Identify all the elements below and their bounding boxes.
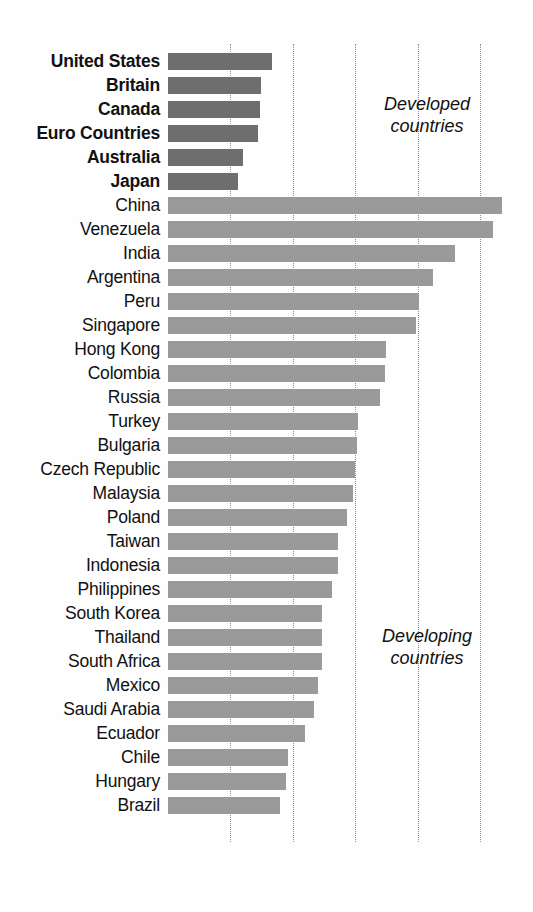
bar[interactable] (168, 749, 288, 766)
bar[interactable] (168, 149, 243, 166)
bar-row-label: Bulgaria (0, 434, 160, 458)
bar-row-label: Ecuador (0, 722, 160, 746)
bar[interactable] (168, 341, 387, 358)
bar-row-label: Chile (0, 746, 160, 770)
bar[interactable] (168, 317, 416, 334)
bar-row-label: Britain (0, 74, 160, 98)
bar-row[interactable]: Australia (0, 146, 533, 170)
bar-chart: United StatesBritainCanadaEuro Countries… (0, 0, 533, 912)
bar-row-label: Philippines (0, 578, 160, 602)
bar-row[interactable]: Taiwan (0, 530, 533, 554)
bar-row-label: Russia (0, 386, 160, 410)
bar-row-label: Taiwan (0, 530, 160, 554)
bar-row-label: United States (0, 50, 160, 74)
bar-row[interactable]: Czech Republic (0, 458, 533, 482)
bar[interactable] (168, 221, 493, 238)
bar-row[interactable]: Bulgaria (0, 434, 533, 458)
bar[interactable] (168, 389, 381, 406)
bar-row[interactable]: China (0, 194, 533, 218)
bar[interactable] (168, 533, 338, 550)
annotation-developed-countries: Developed countries (352, 93, 502, 137)
bar-row[interactable]: United States (0, 50, 533, 74)
bar-row-label: Argentina (0, 266, 160, 290)
bar-row-label: Colombia (0, 362, 160, 386)
bar-row[interactable]: Peru (0, 290, 533, 314)
bar[interactable] (168, 629, 323, 646)
bar-row-label: Australia (0, 146, 160, 170)
bar[interactable] (168, 509, 348, 526)
bar[interactable] (168, 293, 420, 310)
bar[interactable] (168, 797, 281, 814)
bar[interactable] (168, 653, 323, 670)
bar-row[interactable]: Mexico (0, 674, 533, 698)
bar[interactable] (168, 197, 502, 214)
bar[interactable] (168, 365, 385, 382)
bar-row[interactable]: Malaysia (0, 482, 533, 506)
bar[interactable] (168, 53, 273, 70)
bar-row-label: Czech Republic (0, 458, 160, 482)
bar-row[interactable]: Indonesia (0, 554, 533, 578)
bar-row[interactable]: India (0, 242, 533, 266)
bar[interactable] (168, 581, 332, 598)
bar-row-label: Turkey (0, 410, 160, 434)
bar-row-label: Indonesia (0, 554, 160, 578)
bar-row[interactable]: Singapore (0, 314, 533, 338)
bar[interactable] (168, 101, 260, 118)
bar-row-label: Singapore (0, 314, 160, 338)
bar-row-label: Hungary (0, 770, 160, 794)
bar-row-label: South Korea (0, 602, 160, 626)
bar-row[interactable]: Brazil (0, 794, 533, 818)
bar-row-label: Thailand (0, 626, 160, 650)
bar-row-label: Japan (0, 170, 160, 194)
bar-row-label: India (0, 242, 160, 266)
bar[interactable] (168, 269, 434, 286)
bar-row[interactable]: Hungary (0, 770, 533, 794)
bar-row[interactable]: Hong Kong (0, 338, 533, 362)
bar-row-label: China (0, 194, 160, 218)
bar[interactable] (168, 461, 356, 478)
bar-row[interactable]: Russia (0, 386, 533, 410)
bar[interactable] (168, 605, 323, 622)
bar-row-label: Mexico (0, 674, 160, 698)
bar-row-label: Saudi Arabia (0, 698, 160, 722)
bar[interactable] (168, 77, 262, 94)
bar[interactable] (168, 557, 338, 574)
bar[interactable] (168, 125, 259, 142)
bar-row[interactable]: Chile (0, 746, 533, 770)
annotation-developing-countries: Developing countries (352, 625, 502, 669)
bar-row[interactable]: Philippines (0, 578, 533, 602)
bar[interactable] (168, 437, 357, 454)
bar-row[interactable]: South Korea (0, 602, 533, 626)
bar-row[interactable]: Ecuador (0, 722, 533, 746)
bar-row[interactable]: Turkey (0, 410, 533, 434)
bar[interactable] (168, 485, 354, 502)
bar-row-label: Poland (0, 506, 160, 530)
bar-row[interactable]: Japan (0, 170, 533, 194)
bar-row[interactable]: Poland (0, 506, 533, 530)
bar-row-label: Venezuela (0, 218, 160, 242)
bar[interactable] (168, 677, 318, 694)
x-axis: 2%4%6%8%10% (0, 842, 533, 912)
bar[interactable] (168, 173, 238, 190)
bar-row-label: Hong Kong (0, 338, 160, 362)
bar-row-label: Malaysia (0, 482, 160, 506)
bar-row-label: Canada (0, 98, 160, 122)
bar[interactable] (168, 413, 359, 430)
bar[interactable] (168, 701, 315, 718)
bar-row[interactable]: Saudi Arabia (0, 698, 533, 722)
bar-row-label: Euro Countries (0, 122, 160, 146)
bar[interactable] (168, 245, 456, 262)
bar-row[interactable]: Colombia (0, 362, 533, 386)
bar-row-label: Brazil (0, 794, 160, 818)
bar-row-label: Peru (0, 290, 160, 314)
bar-row[interactable]: Venezuela (0, 218, 533, 242)
bar-row[interactable]: Argentina (0, 266, 533, 290)
bar[interactable] (168, 773, 287, 790)
bar[interactable] (168, 725, 306, 742)
bar-row-label: South Africa (0, 650, 160, 674)
